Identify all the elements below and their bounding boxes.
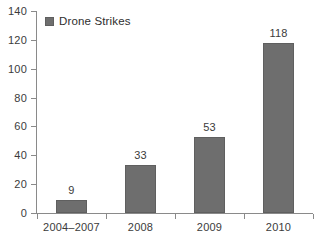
y-axis-tick [31,98,36,99]
y-axis-tick-label: 80 [0,93,27,104]
bar-value-label: 118 [244,28,313,39]
bar-value-label: 53 [175,122,244,133]
bar-chart: 020406080100120140 92004–200733200853200… [0,0,336,241]
x-axis-category-label: 2010 [244,221,313,233]
x-axis-tick [244,214,245,219]
x-axis-tick [106,214,107,219]
bar [194,137,225,213]
y-axis-tick [31,126,36,127]
y-axis-tick [31,213,36,214]
x-axis-category-label: 2008 [106,221,175,233]
bar [56,200,87,213]
y-axis-tick [31,11,36,12]
y-axis-tick-label: 60 [0,121,27,132]
square-swatch-icon [45,17,54,26]
y-axis-tick-label: 140 [0,6,27,17]
bar-value-label: 33 [106,150,175,161]
y-axis-tick-label: 40 [0,150,27,161]
bar-value-label: 9 [37,185,106,196]
legend-label-drone-strikes: Drone Strikes [59,15,131,27]
x-axis-category-label: 2009 [175,221,244,233]
bar [263,43,294,213]
y-axis-tick-label: 100 [0,64,27,75]
y-axis-tick [31,69,36,70]
x-axis-tick [37,214,38,219]
y-axis-tick [31,40,36,41]
x-axis-tick [175,214,176,219]
x-axis-tick [313,214,314,219]
y-axis-line [36,11,37,214]
bar [125,165,156,213]
legend: Drone Strikes [45,15,131,27]
y-axis-tick [31,184,36,185]
y-axis-tick-label: 120 [0,35,27,46]
x-axis-category-label: 2004–2007 [37,221,106,233]
y-axis-tick [31,155,36,156]
y-axis-tick-label: 20 [0,179,27,190]
y-axis-tick-label: 0 [0,208,27,219]
